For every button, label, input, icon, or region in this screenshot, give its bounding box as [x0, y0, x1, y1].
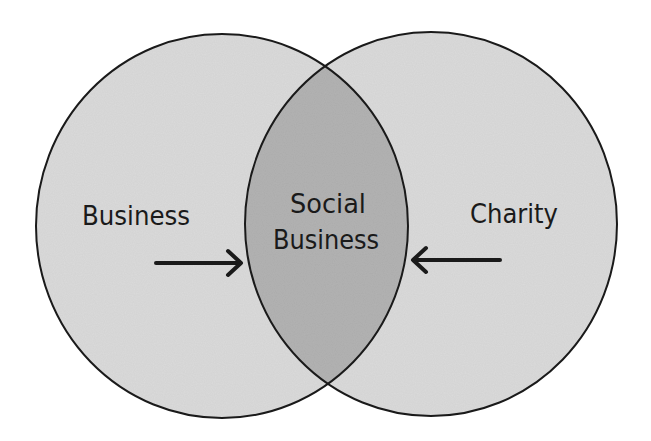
business-label: Business — [82, 201, 190, 231]
charity-label: Charity — [470, 199, 558, 229]
venn-diagram: Business Charity Social Business — [0, 0, 651, 441]
intersection-label-line2: Business — [273, 225, 379, 255]
intersection-label-line1: Social — [290, 189, 366, 219]
